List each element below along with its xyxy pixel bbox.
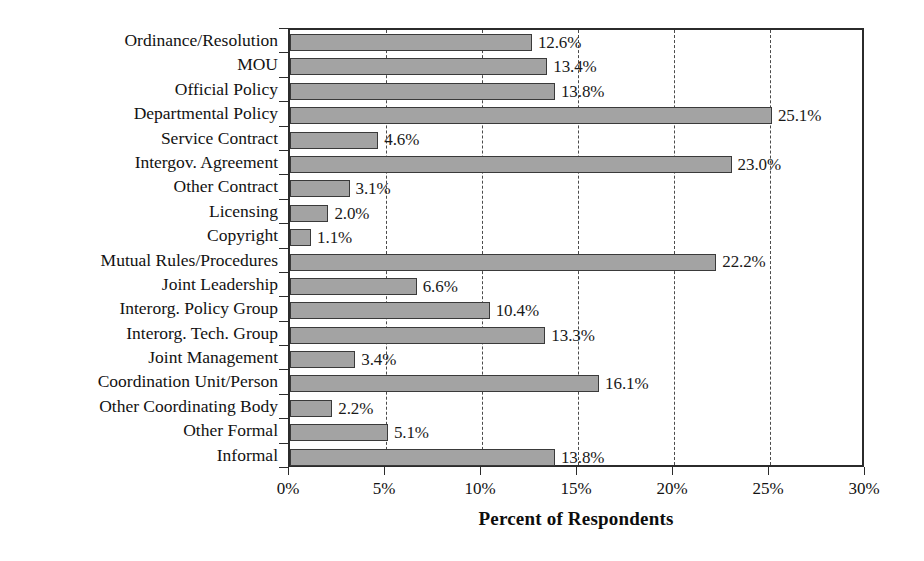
y-tick bbox=[279, 296, 288, 297]
category-label: Departmental Policy bbox=[134, 101, 278, 127]
x-tick-label: 5% bbox=[373, 479, 396, 499]
bar-row: 13.4% bbox=[290, 54, 862, 80]
bar bbox=[290, 83, 555, 100]
category-label: Joint Leadership bbox=[162, 272, 278, 298]
category-label: Service Contract bbox=[161, 126, 278, 152]
category-label: MOU bbox=[237, 52, 278, 78]
y-tick bbox=[279, 467, 288, 468]
bar-value-label: 6.6% bbox=[423, 276, 458, 296]
bar-row: 2.2% bbox=[290, 396, 862, 422]
category-label: Other Contract bbox=[174, 174, 278, 200]
y-tick bbox=[279, 28, 288, 29]
y-tick bbox=[279, 418, 288, 419]
bar-row: 6.6% bbox=[290, 274, 862, 300]
bar-value-label: 12.6% bbox=[538, 33, 581, 53]
category-label: Other Coordinating Body bbox=[99, 394, 278, 420]
x-tick bbox=[864, 467, 865, 475]
bar-value-label: 13.3% bbox=[551, 325, 594, 345]
y-tick bbox=[279, 272, 288, 273]
bar bbox=[290, 327, 545, 344]
category-label: Interorg. Tech. Group bbox=[126, 321, 278, 347]
bar bbox=[290, 278, 417, 295]
bar-value-label: 23.0% bbox=[738, 154, 781, 174]
bar-value-label: 22.2% bbox=[722, 252, 765, 272]
category-label: Mutual Rules/Procedures bbox=[101, 248, 278, 274]
bar bbox=[290, 107, 772, 124]
bar-row: 23.0% bbox=[290, 152, 862, 178]
y-tick bbox=[279, 52, 288, 53]
category-label: Other Formal bbox=[183, 418, 278, 444]
bar-row: 4.6% bbox=[290, 128, 862, 154]
x-axis-title: Percent of Respondents bbox=[288, 508, 864, 530]
bar bbox=[290, 229, 311, 246]
x-tick-label: 10% bbox=[464, 479, 495, 499]
bar-row: 16.1% bbox=[290, 371, 862, 397]
bar bbox=[290, 400, 332, 417]
bar bbox=[290, 132, 378, 149]
bar-value-label: 4.6% bbox=[384, 130, 419, 150]
bar bbox=[290, 424, 388, 441]
bar-row: 2.0% bbox=[290, 201, 862, 227]
bar-row: 22.2% bbox=[290, 250, 862, 276]
category-label: Ordinance/Resolution bbox=[124, 28, 278, 54]
bar bbox=[290, 205, 328, 222]
bar-row: 13.8% bbox=[290, 445, 862, 471]
bar-value-label: 13.8% bbox=[561, 81, 604, 101]
y-tick bbox=[279, 199, 288, 200]
y-tick bbox=[279, 369, 288, 370]
bar-value-label: 13.4% bbox=[553, 57, 596, 77]
bar-row: 3.4% bbox=[290, 347, 862, 373]
category-label: Copyright bbox=[207, 223, 278, 249]
x-tick-label: 20% bbox=[656, 479, 687, 499]
y-tick bbox=[279, 443, 288, 444]
bars-layer: 12.6%13.4%13.8%25.1%4.6%23.0%3.1%2.0%1.1… bbox=[290, 30, 862, 465]
x-tick-label: 0% bbox=[277, 479, 300, 499]
bar bbox=[290, 34, 532, 51]
bar-value-label: 16.1% bbox=[605, 374, 648, 394]
y-tick bbox=[279, 394, 288, 395]
bar-value-label: 3.4% bbox=[361, 350, 396, 370]
bar-value-label: 25.1% bbox=[778, 106, 821, 126]
y-tick bbox=[279, 223, 288, 224]
bar bbox=[290, 449, 555, 466]
category-axis-labels: Ordinance/ResolutionMOUOfficial PolicyDe… bbox=[0, 28, 278, 467]
category-label: Intergov. Agreement bbox=[135, 150, 278, 176]
category-label: Licensing bbox=[209, 199, 278, 225]
bar-row: 1.1% bbox=[290, 225, 862, 251]
bar bbox=[290, 351, 355, 368]
bar-row: 12.6% bbox=[290, 30, 862, 56]
y-tick bbox=[279, 321, 288, 322]
bar-value-label: 2.2% bbox=[338, 398, 373, 418]
bar-value-label: 10.4% bbox=[496, 301, 539, 321]
y-tick bbox=[279, 101, 288, 102]
y-tick bbox=[279, 345, 288, 346]
bar-row: 5.1% bbox=[290, 420, 862, 446]
bar-row: 3.1% bbox=[290, 176, 862, 202]
bar-row: 25.1% bbox=[290, 103, 862, 129]
bar-row: 13.8% bbox=[290, 79, 862, 105]
y-tick bbox=[279, 248, 288, 249]
bar bbox=[290, 156, 732, 173]
x-tick-label: 25% bbox=[752, 479, 783, 499]
bar bbox=[290, 180, 350, 197]
x-tick-label: 15% bbox=[560, 479, 591, 499]
bar bbox=[290, 375, 599, 392]
category-label: Joint Management bbox=[148, 345, 278, 371]
bar-value-label: 13.8% bbox=[561, 447, 604, 467]
y-tick bbox=[279, 174, 288, 175]
y-tick bbox=[279, 77, 288, 78]
horizontal-bar-chart: Ordinance/ResolutionMOUOfficial PolicyDe… bbox=[0, 0, 924, 561]
bar-value-label: 5.1% bbox=[394, 423, 429, 443]
plot-area: 12.6%13.4%13.8%25.1%4.6%23.0%3.1%2.0%1.1… bbox=[288, 28, 864, 467]
bar bbox=[290, 302, 490, 319]
category-label: Interorg. Policy Group bbox=[119, 296, 278, 322]
bar-row: 10.4% bbox=[290, 298, 862, 324]
bar bbox=[290, 254, 716, 271]
bar-value-label: 1.1% bbox=[317, 228, 352, 248]
category-label: Informal bbox=[217, 443, 278, 469]
x-tick bbox=[288, 467, 289, 475]
category-label: Official Policy bbox=[175, 77, 278, 103]
bar-value-label: 2.0% bbox=[334, 203, 369, 223]
bar bbox=[290, 58, 547, 75]
y-tick bbox=[279, 150, 288, 151]
